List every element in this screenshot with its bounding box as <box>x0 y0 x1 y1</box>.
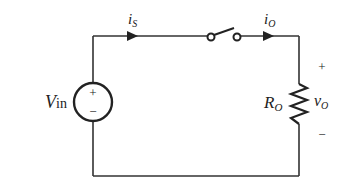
switch <box>208 28 241 41</box>
switch-blade-icon <box>214 28 234 35</box>
source-minus-sign: − <box>89 104 96 119</box>
label-vo: vO <box>314 92 328 111</box>
label-ro: RO <box>263 93 282 113</box>
label-vin: Vin <box>45 92 67 112</box>
resistor-zigzag-icon <box>291 84 307 124</box>
switch-terminal-right-icon <box>234 34 241 41</box>
current-arrow-is-icon <box>127 31 138 41</box>
output-plus-sign: + <box>318 59 325 74</box>
source-plus-sign: + <box>89 85 96 100</box>
current-arrow-io-icon <box>263 31 274 41</box>
voltage-source: + − <box>74 83 112 121</box>
circuit-diagram: + − iS iO Vin RO vO + − <box>0 0 348 189</box>
output-minus-sign: − <box>318 127 325 142</box>
switch-terminal-left-icon <box>208 34 215 41</box>
label-is: iS <box>128 11 137 29</box>
label-io: iO <box>264 11 275 29</box>
